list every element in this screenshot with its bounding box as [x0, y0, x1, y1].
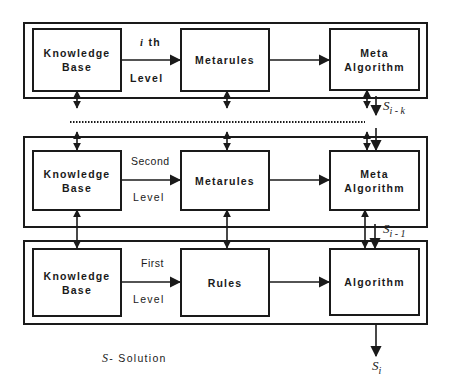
algorithm-label: Algorithm — [344, 275, 404, 289]
level-ith-meta-algorithm: Meta Algorithm — [329, 28, 420, 91]
level-second-top-label: Second — [131, 155, 170, 167]
metarules-label: Metarules — [195, 53, 255, 67]
level-ith-bottom-label: Level — [130, 72, 163, 84]
level-first-top-label: First — [141, 257, 164, 269]
knowledge-base-label: Knowledge Base — [42, 269, 112, 297]
knowledge-base-label: Knowledge Base — [42, 46, 112, 74]
level-ith-knowledge-base: Knowledge Base — [32, 28, 122, 92]
level-second-meta-algorithm: Meta Algorithm — [329, 150, 420, 211]
level-first-algorithm: Algorithm — [329, 248, 420, 316]
metarules-label: Metarules — [195, 174, 255, 188]
level-second-metarules: Metarules — [180, 150, 270, 211]
level-second-bottom-label: Level — [133, 191, 165, 203]
level-second-knowledge-base: Knowledge Base — [32, 150, 122, 211]
solution-s-i: Si — [372, 358, 381, 376]
meta-algorithm-label: Meta Algorithm — [340, 167, 410, 195]
level-first-bottom-label: Level — [133, 293, 165, 305]
level-ith-top-label: i th — [140, 36, 161, 48]
knowledge-base-label: Knowledge Base — [42, 167, 112, 195]
level-ith-metarules: Metarules — [180, 28, 270, 92]
solution-s-i-minus-1: Si - 1 — [383, 221, 406, 239]
meta-algorithm-label: Meta Algorithm — [340, 46, 410, 74]
rules-label: Rules — [208, 276, 243, 290]
level-first-rules: Rules — [180, 248, 270, 317]
level-first-knowledge-base: Knowledge Base — [32, 248, 122, 317]
solution-s-i-minus-k: Si - k — [383, 98, 405, 116]
legend-solution: S- Solution — [102, 351, 167, 366]
